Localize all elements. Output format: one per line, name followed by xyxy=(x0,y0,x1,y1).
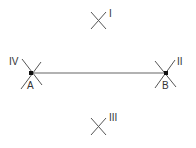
label-iii: III xyxy=(109,112,117,123)
label-ii: II xyxy=(177,56,183,67)
arc-mark-i xyxy=(91,12,106,29)
point-b xyxy=(164,71,168,75)
label-a: A xyxy=(27,80,34,91)
arc-mark-iii xyxy=(91,118,106,135)
construction-diagram: I II III IV A B xyxy=(0,0,196,148)
label-b: B xyxy=(162,80,169,91)
point-a xyxy=(29,71,33,75)
label-iv: IV xyxy=(9,56,19,67)
label-i: I xyxy=(109,8,112,19)
